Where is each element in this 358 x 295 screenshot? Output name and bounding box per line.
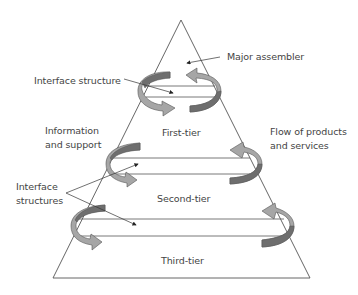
interface-loop-tier3 — [71, 203, 294, 250]
label-flow-1: Flow of products — [270, 125, 347, 138]
label-information-1: Information — [45, 124, 99, 137]
label-interface-structure: Interface structure — [34, 74, 121, 87]
tier-label-third: Third-tier — [161, 254, 204, 267]
label-interface-structures-2: structures — [16, 194, 63, 207]
interface-loop-tier1 — [138, 68, 221, 116]
label-information-2: and support — [45, 138, 101, 151]
label-interface-structures-1: Interface — [16, 180, 58, 193]
tier-label-second: Second-tier — [157, 192, 210, 205]
interface-loop-tier2 — [106, 142, 262, 187]
pointer-major-assembler — [187, 57, 220, 63]
label-flow-2: and services — [270, 139, 329, 152]
label-major-assembler: Major assembler — [227, 50, 304, 63]
tier-label-first: First-tier — [162, 126, 201, 139]
